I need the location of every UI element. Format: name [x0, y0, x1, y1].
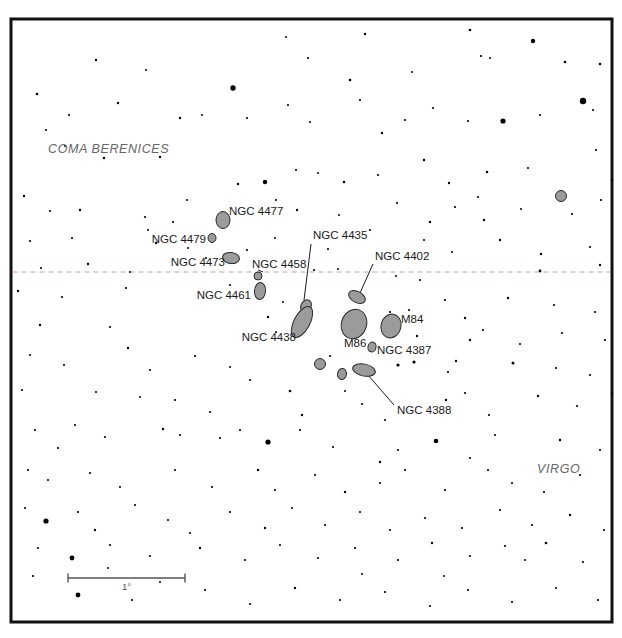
star-marker: [204, 589, 206, 591]
star-marker: [589, 246, 591, 248]
star-marker: [39, 324, 41, 326]
galaxy-label: NGC 4402: [375, 250, 429, 262]
star-marker: [95, 391, 97, 393]
star-marker: [611, 392, 613, 394]
star-marker: [45, 129, 47, 131]
star-marker: [294, 587, 296, 589]
star-marker: [267, 316, 269, 318]
star-marker: [379, 482, 381, 484]
star-marker: [107, 567, 109, 569]
star-marker: [246, 117, 248, 119]
star-marker: [317, 557, 319, 559]
star-marker: [32, 575, 34, 577]
star-marker: [404, 119, 406, 121]
star-marker: [595, 149, 597, 151]
star-marker: [344, 491, 346, 493]
star-marker: [531, 39, 535, 43]
star-marker: [592, 109, 594, 111]
star-marker: [125, 287, 127, 289]
star-marker: [349, 79, 352, 82]
star-marker: [384, 419, 386, 421]
star-marker: [189, 532, 191, 534]
star-marker: [545, 542, 548, 545]
star-marker: [419, 279, 421, 281]
galaxy-ellipse[interactable]: [556, 191, 567, 202]
star-marker: [274, 489, 276, 491]
star-marker: [451, 251, 453, 253]
star-marker: [249, 603, 251, 605]
star-marker: [412, 360, 415, 363]
star-marker: [454, 206, 456, 208]
star-marker: [594, 311, 596, 313]
star-marker: [404, 469, 406, 471]
star-marker: [127, 347, 129, 349]
star-marker: [482, 329, 484, 331]
galaxy-label: NGC 4461: [197, 289, 251, 301]
star-marker: [282, 301, 284, 303]
star-marker: [504, 545, 506, 547]
star-marker: [343, 181, 346, 184]
star-chart: NGC 4477NGC 4479NGC 4473NGC 4458NGC 4461…: [0, 0, 622, 638]
star-marker: [480, 55, 482, 57]
star-marker: [129, 271, 131, 273]
star-marker: [344, 390, 346, 392]
star-marker: [494, 434, 496, 436]
star-marker: [381, 132, 383, 134]
star-marker: [40, 267, 42, 269]
star-marker: [299, 429, 301, 431]
galaxy-ellipse[interactable]: [315, 359, 326, 370]
star-marker: [109, 544, 111, 546]
galaxy-ellipse[interactable]: [254, 272, 262, 280]
star-marker: [389, 529, 391, 531]
galaxy-label: NGC 4435: [313, 229, 367, 241]
star-marker: [296, 209, 298, 211]
star-marker: [397, 559, 399, 561]
star-marker: [149, 555, 151, 557]
galaxy-ellipse[interactable]: [208, 234, 216, 243]
star-marker: [27, 469, 29, 471]
star-marker: [444, 489, 446, 491]
star-marker: [434, 439, 439, 444]
star-marker: [499, 239, 501, 241]
star-marker: [219, 437, 221, 439]
star-marker: [469, 339, 471, 341]
star-marker: [469, 29, 472, 32]
star-marker: [511, 601, 513, 603]
star-marker: [519, 343, 521, 345]
star-marker: [34, 429, 36, 431]
star-marker: [603, 529, 605, 531]
star-marker: [119, 486, 121, 488]
star-marker: [229, 284, 231, 286]
star-marker: [448, 182, 450, 184]
star-marker: [47, 479, 49, 481]
star-marker: [397, 449, 399, 451]
star-marker: [543, 491, 545, 493]
star-marker: [389, 311, 391, 313]
star-marker: [555, 367, 557, 369]
star-marker: [561, 332, 563, 334]
star-marker: [469, 555, 471, 557]
star-marker: [186, 199, 188, 201]
star-marker: [511, 482, 513, 484]
star-marker: [467, 589, 469, 591]
star-marker: [477, 196, 479, 198]
star-marker: [95, 59, 97, 61]
star-marker: [384, 591, 386, 593]
galaxy-label: NGC 4477: [229, 205, 283, 217]
star-marker: [600, 199, 602, 201]
constellation-label: VIRGO: [537, 462, 580, 476]
constellation-label: COMA BERENICES: [48, 142, 169, 156]
star-marker: [314, 474, 316, 476]
star-marker: [94, 529, 96, 531]
star-marker: [332, 446, 334, 448]
galaxy-ellipse[interactable]: [216, 212, 230, 229]
star-marker: [379, 461, 381, 463]
star-marker: [172, 221, 174, 223]
star-marker: [467, 120, 469, 122]
star-marker: [57, 447, 59, 449]
star-marker: [553, 304, 555, 306]
star-marker: [68, 114, 70, 116]
star-marker: [611, 179, 613, 181]
star-marker: [145, 69, 147, 71]
star-marker: [445, 399, 447, 401]
